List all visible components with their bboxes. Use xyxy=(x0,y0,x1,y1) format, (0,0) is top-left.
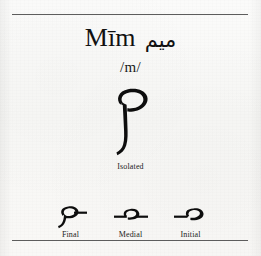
page-content: Mīm ميم /m/ Isolated xyxy=(0,15,261,240)
final-glyph-container xyxy=(48,203,94,229)
initial-glyph-container xyxy=(168,203,214,229)
title-row: Mīm ميم xyxy=(0,25,261,51)
isolated-glyph-container xyxy=(0,84,261,160)
letter-name-latin: Mīm xyxy=(85,25,136,51)
form-label-medial: Medial xyxy=(108,230,154,239)
form-cell-initial: Initial xyxy=(168,203,214,239)
form-label-final: Final xyxy=(48,230,94,239)
meem-isolated-glyph xyxy=(104,86,158,158)
phonetic-transcription: /m/ xyxy=(0,59,261,76)
meem-initial-glyph xyxy=(174,203,208,229)
medial-glyph-container xyxy=(108,203,154,229)
meem-medial-glyph xyxy=(114,203,148,229)
bottom-rule-divider xyxy=(12,240,248,241)
positional-forms-row: Final Medial xyxy=(0,203,261,239)
meem-final-glyph xyxy=(54,203,88,229)
form-cell-final: Final xyxy=(48,203,94,239)
letter-name-arabic: ميم xyxy=(145,30,177,51)
letter-page: Mīm ميم /m/ Isolated xyxy=(0,0,261,256)
form-label-initial: Initial xyxy=(168,230,214,239)
form-cell-medial: Medial xyxy=(108,203,154,239)
isolated-caption: Isolated xyxy=(0,162,261,171)
